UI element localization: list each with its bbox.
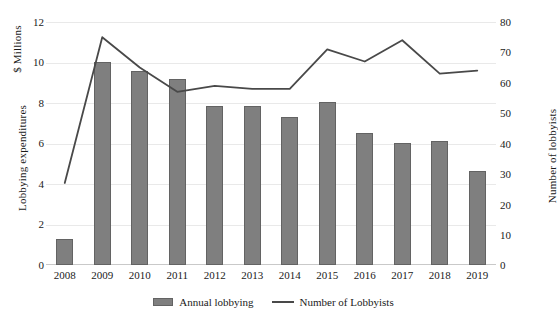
y-tick-left-4: 4 bbox=[18, 178, 44, 190]
lobbyists-line-path bbox=[65, 37, 478, 183]
y-tick-right-70: 70 bbox=[500, 46, 526, 58]
y-tick-right-60: 60 bbox=[500, 77, 526, 89]
plot-area bbox=[46, 22, 496, 265]
y-tick-left-8: 8 bbox=[18, 97, 44, 109]
y-tick-right-0: 0 bbox=[500, 259, 526, 271]
y-axis-unit-label: $ Millions bbox=[11, 19, 23, 79]
y-tick-left-10: 10 bbox=[18, 56, 44, 68]
y-tick-left-6: 6 bbox=[18, 137, 44, 149]
legend-line-swatch-icon bbox=[272, 301, 294, 303]
legend-bar-swatch-icon bbox=[153, 298, 173, 306]
y-tick-right-20: 20 bbox=[500, 199, 526, 211]
y-tick-left-12: 12 bbox=[18, 16, 44, 28]
y-tick-left-0: 0 bbox=[18, 259, 44, 271]
line-series bbox=[46, 22, 496, 265]
legend-label-annual-lobbying: Annual lobbying bbox=[179, 296, 253, 308]
y-tick-left-2: 2 bbox=[18, 218, 44, 230]
legend-label-number-of-lobbyists: Number of Lobbyists bbox=[300, 296, 394, 308]
x-tick-2019: 2019 bbox=[455, 269, 499, 281]
y-tick-right-10: 10 bbox=[500, 229, 526, 241]
y-tick-right-50: 50 bbox=[500, 107, 526, 119]
y-tick-right-40: 40 bbox=[500, 138, 526, 150]
y-axis-title-left: Lobbying expenditures bbox=[16, 93, 28, 223]
y-tick-right-30: 30 bbox=[500, 168, 526, 180]
chart-legend: Annual lobbying Number of Lobbyists bbox=[0, 296, 547, 308]
y-axis-title-right: Number of lobbyists bbox=[546, 91, 558, 221]
legend-item-annual-lobbying: Annual lobbying bbox=[153, 296, 253, 308]
legend-item-number-of-lobbyists: Number of Lobbyists bbox=[272, 296, 394, 308]
y-tick-right-80: 80 bbox=[500, 16, 526, 28]
